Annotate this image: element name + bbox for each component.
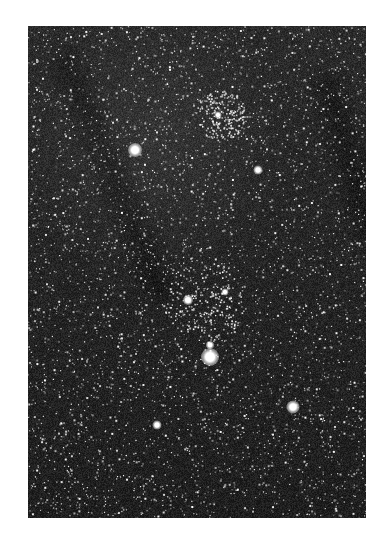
starfield-canvas xyxy=(28,26,366,518)
star-field-photo xyxy=(28,26,366,518)
